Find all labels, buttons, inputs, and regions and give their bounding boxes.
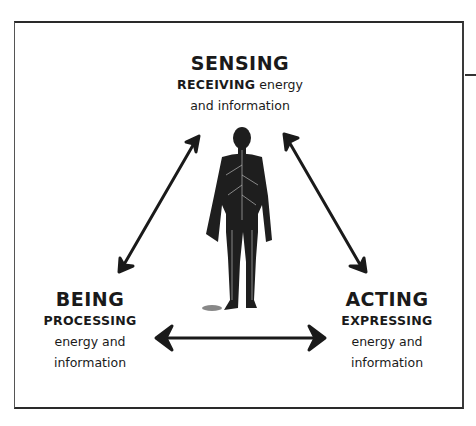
arrow-sensing-being (119, 136, 199, 272)
human-figure-icon (202, 127, 272, 311)
arrow-being-acting (156, 326, 325, 350)
diagram-graphics (0, 0, 476, 426)
arrow-sensing-acting (284, 134, 366, 272)
